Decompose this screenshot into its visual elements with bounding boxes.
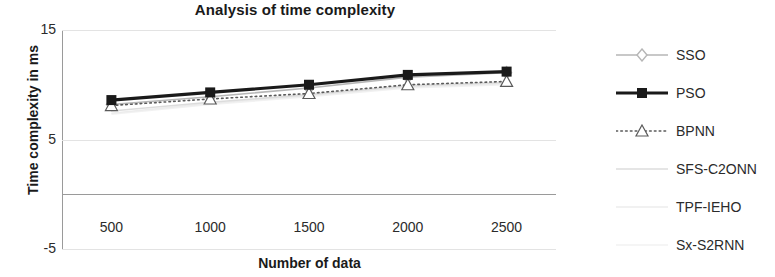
time-complexity-chart: Analysis of time complexity Time complex… (0, 0, 775, 277)
legend-item-sx-s2rnn[interactable]: Sx-S2RNN (616, 226, 775, 264)
legend-item-pso[interactable]: PSO (616, 74, 775, 112)
legend-key-icon (616, 200, 668, 214)
legend-item-sfs-c2onn[interactable]: SFS-C2ONN (616, 150, 775, 188)
legend-key-icon (616, 238, 668, 252)
x-axis-title: Number of data (62, 255, 557, 271)
legend-label: SFS-C2ONN (676, 161, 757, 177)
legend-label: PSO (676, 85, 706, 101)
legend-key-icon (616, 86, 668, 100)
data-point-marker (502, 67, 512, 77)
legend-item-bpnn[interactable]: BPNN (616, 112, 775, 150)
legend-label: SSO (676, 47, 706, 63)
gridline (62, 249, 556, 250)
legend-key-icon (616, 162, 668, 176)
legend-key-icon (616, 48, 668, 62)
legend-key-icon (616, 124, 668, 138)
data-point-marker (403, 70, 413, 80)
legend-item-tpf-ieho[interactable]: TPF-IEHO (616, 188, 775, 226)
y-tick-label: 15 (10, 21, 56, 37)
legend-item-sso[interactable]: SSO (616, 36, 775, 74)
legend-label: Sx-S2RNN (676, 237, 744, 253)
y-tick-label: -5 (10, 240, 56, 256)
data-point-marker (501, 75, 513, 86)
data-point-marker (205, 87, 215, 97)
data-point-marker (304, 80, 314, 90)
data-point-marker (637, 49, 647, 61)
y-axis-title: Time complexity in ms (25, 25, 41, 215)
data-point-marker (637, 88, 647, 98)
legend-label: TPF-IEHO (676, 199, 741, 215)
chart-title: Analysis of time complexity (130, 1, 460, 18)
data-point-marker (402, 79, 414, 90)
plot-series-area (62, 30, 556, 249)
legend-label: BPNN (676, 123, 715, 139)
y-tick-label: 5 (10, 131, 56, 147)
chart-legend: SSOPSOBPNNSFS-C2ONNTPF-IEHOSx-S2RNN (616, 36, 775, 264)
data-point-marker (106, 95, 116, 105)
